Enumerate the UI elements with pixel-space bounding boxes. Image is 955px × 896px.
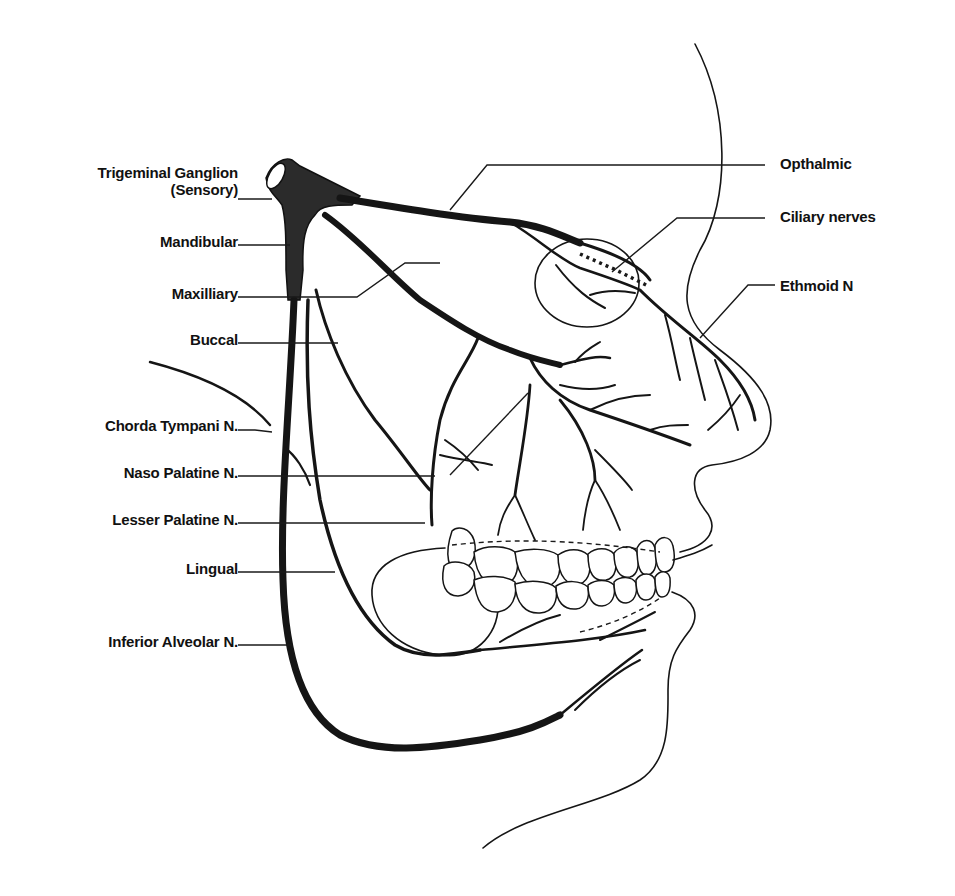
label-buccal: Buccal — [190, 331, 238, 348]
face-profile-outline — [680, 44, 771, 552]
trigeminal-nerve-diagram — [0, 0, 955, 896]
label-inferior-alveolar: Inferior Alveolar N. — [108, 633, 238, 650]
label-chorda-tympani: Chorda Tympani N. — [105, 417, 238, 434]
label-maxilliary: Maxilliary — [172, 285, 238, 302]
opthalmic-nerve — [340, 198, 580, 243]
label-ethmoid: Ethmoid N — [780, 277, 853, 294]
label-trigeminal-ganglion-line2: (Sensory) — [98, 181, 238, 198]
label-naso-palatine: Naso Palatine N. — [124, 464, 238, 481]
label-lingual: Lingual — [186, 560, 238, 577]
ethmoid-nerve — [640, 290, 755, 420]
label-ciliary-nerves: Ciliary nerves — [780, 208, 876, 225]
label-opthalmic: Opthalmic — [780, 155, 852, 172]
label-lesser-palatine: Lesser Palatine N. — [112, 511, 238, 528]
label-trigeminal-ganglion: Trigeminal Ganglion (Sensory) — [98, 164, 238, 198]
buccal-nerve — [316, 290, 430, 490]
lingual-nerve — [307, 300, 480, 655]
ear-curve — [150, 362, 270, 425]
right-leader-lines — [450, 165, 775, 475]
label-trigeminal-ganglion-line1: Trigeminal Ganglion — [98, 164, 238, 181]
label-mandibular: Mandibular — [160, 233, 238, 250]
maxillary-nerve — [325, 215, 560, 365]
